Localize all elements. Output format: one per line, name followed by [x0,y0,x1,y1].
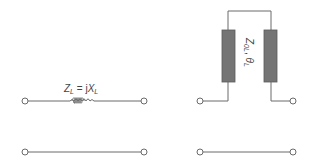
right-terminal-bottom-in [197,149,203,155]
right-terminal-top-in [197,98,203,104]
left-circuit: ZL = jXL [22,83,147,155]
right-terminal-top-out [290,98,296,104]
left-terminal-top-out [141,98,147,104]
stub-left [222,30,235,82]
left-terminal-bottom-out [141,149,147,155]
right-circuit: Z0L, θL [197,11,296,155]
left-terminal-bottom-in [22,149,28,155]
stub-impedance-label: Z0L, θL [243,37,255,67]
right-right-feed-wire [271,82,290,101]
inductor-impedance-label: ZL = jXL [63,83,98,95]
right-terminal-bottom-out [290,149,296,155]
right-left-feed-wire [203,82,228,101]
inductor-loops [72,98,84,103]
stub-top-connection [228,11,271,30]
circuit-diagram: ZL = jXL Z0L, θL [0,0,310,163]
stub-right [264,30,277,82]
left-terminal-top-in [22,98,28,104]
